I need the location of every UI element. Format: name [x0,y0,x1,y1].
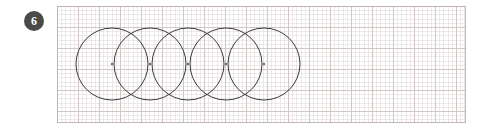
circle-center-dot [225,63,227,65]
circle-center-dot [187,63,189,65]
circle-center-dot [111,63,113,65]
drawing-canvas: 6 [0,0,486,131]
circle-centers-group [111,63,265,65]
circle-center-dot [149,63,151,65]
circle-center-dot [263,63,265,65]
circles-drawing-layer [0,0,486,131]
